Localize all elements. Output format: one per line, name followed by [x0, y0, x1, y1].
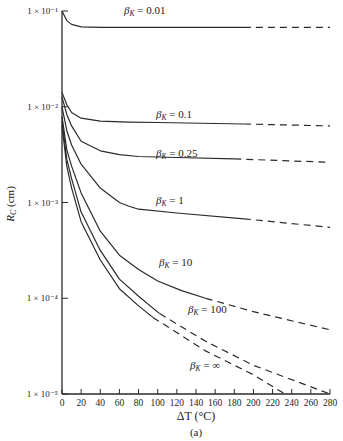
series-label: βK = 1	[155, 194, 184, 208]
x-tick-label: 60	[115, 398, 125, 408]
series-label: βK = 0.01	[123, 4, 165, 18]
x-tick-label: 280	[323, 398, 338, 408]
y-axis-label: RC (cm)	[4, 186, 18, 223]
series-label: βK = ∞	[189, 359, 220, 373]
series-line-solid	[62, 97, 234, 159]
series-line-dashed	[153, 317, 285, 394]
x-tick-label: 160	[208, 398, 223, 408]
x-tick-label: 120	[170, 398, 185, 408]
curves	[62, 11, 330, 394]
x-tick-label: 240	[285, 398, 300, 408]
series-line-solid	[62, 92, 244, 124]
series-line-solid	[62, 126, 153, 318]
line-chart: 0204060801001201401601802002202402602801…	[0, 0, 343, 441]
y-tick-label: 1 × 10⁻³	[27, 198, 58, 208]
x-tick-label: 180	[227, 398, 242, 408]
series-label: βK = 100	[187, 303, 227, 317]
series-labels: βK = 0.01βK = 0.1βK = 0.25βK = 1βK = 10β…	[123, 4, 227, 373]
series-label: βK = 0.25	[155, 147, 198, 161]
x-tick-label: 0	[60, 398, 65, 408]
x-tick-label: 140	[189, 398, 204, 408]
x-tick-label: 20	[76, 398, 86, 408]
series-line-dashed	[234, 159, 330, 162]
x-tick-label: 200	[246, 398, 261, 408]
x-tick-label: 220	[265, 398, 280, 408]
series-line-dashed	[244, 219, 330, 228]
x-tick-label: 40	[96, 398, 106, 408]
y-tick-label: 1 × 10⁻⁴	[27, 293, 58, 303]
x-axis-label: ΔT (°C)	[177, 409, 216, 423]
series-label: βK = 0.1	[155, 108, 192, 122]
y-tick-label: 1 × 10⁻²	[27, 102, 58, 112]
series-line-dashed	[160, 314, 330, 394]
x-tick-label: 100	[151, 398, 166, 408]
axes: 0204060801001201401601802002202402602801…	[27, 6, 338, 408]
y-tick-label: 1 × 10⁻¹	[27, 6, 58, 16]
series-line-solid	[62, 121, 160, 314]
x-tick-label: 80	[134, 398, 144, 408]
y-tick-label: 1 × 10⁻⁵	[27, 389, 58, 399]
series-line-dashed	[244, 124, 330, 126]
x-tick-label: 260	[304, 398, 319, 408]
subtitle: (a)	[190, 426, 203, 439]
series-label: βK = 10	[158, 256, 193, 270]
